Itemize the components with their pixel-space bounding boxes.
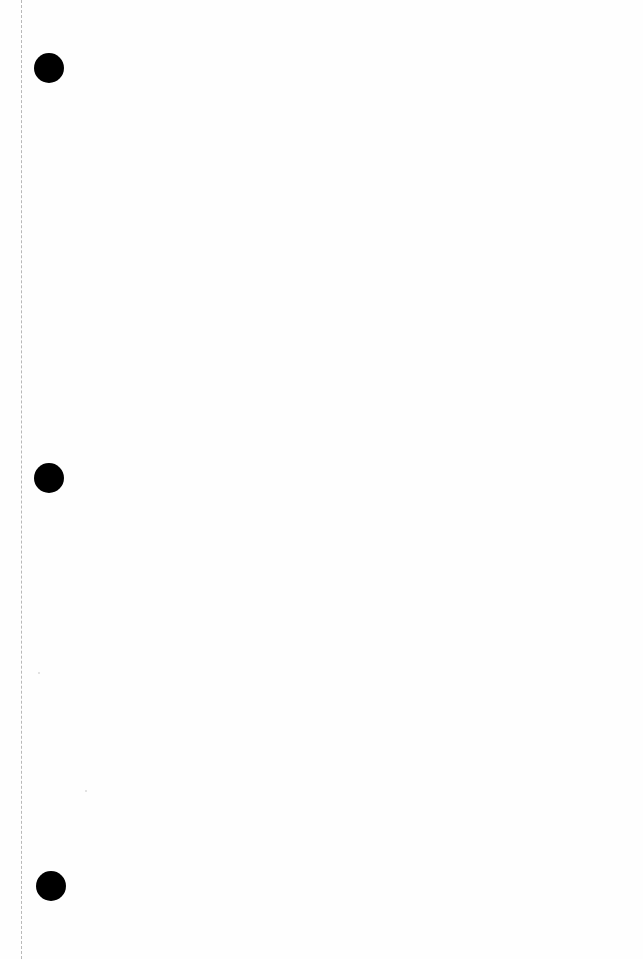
scan-speck bbox=[85, 790, 87, 792]
blank-page bbox=[0, 0, 643, 959]
punch-hole-top bbox=[34, 53, 64, 83]
dashed-margin-line bbox=[21, 0, 22, 959]
punch-hole-middle bbox=[34, 463, 64, 493]
scan-speck bbox=[38, 672, 40, 674]
punch-hole-bottom bbox=[36, 871, 66, 901]
